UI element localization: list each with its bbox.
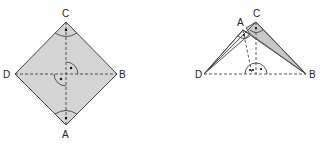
- angle-dot-c-right: [255, 27, 257, 29]
- right-figure: A C D B: [195, 8, 316, 80]
- edge-a-b: [243, 30, 306, 74]
- right-angle-dot-top: [70, 67, 72, 69]
- angle-dot-c: [65, 29, 67, 31]
- label-d-right: D: [195, 69, 202, 80]
- label-c-left: C: [62, 8, 69, 19]
- label-c-right: C: [253, 8, 260, 19]
- label-b-left: B: [119, 69, 126, 80]
- right-angle-dot-3: [260, 68, 262, 70]
- right-angle-dot-2: [252, 69, 254, 71]
- diagram-canvas: C D B A A C D B: [0, 0, 321, 146]
- left-figure: C D B A: [3, 8, 126, 140]
- edge-d-a: [204, 30, 243, 74]
- right-angle-dot-1: [249, 69, 251, 71]
- label-d-left: D: [3, 69, 10, 80]
- angle-dot-a-right: [243, 34, 245, 36]
- angle-dot-a: [65, 117, 67, 119]
- right-angle-dot-bottom: [60, 78, 62, 80]
- label-a-left: A: [62, 129, 69, 140]
- label-a-right: A: [237, 17, 244, 28]
- triangle-cb-shaded: [246, 22, 306, 74]
- label-b-right: B: [309, 69, 316, 80]
